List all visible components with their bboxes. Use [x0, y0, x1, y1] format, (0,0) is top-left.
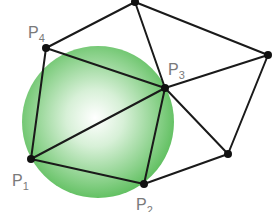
triangulation-diagram: P1 P2 P3 P4	[0, 0, 272, 212]
label-p4: P4	[28, 24, 45, 44]
circumcircle	[22, 46, 174, 198]
edge-r-b	[228, 55, 268, 154]
node-t	[131, 0, 139, 6]
node-p3	[161, 84, 169, 92]
label-p3: P3	[168, 61, 185, 81]
edge-p4-t	[46, 2, 135, 48]
node-b	[224, 150, 232, 158]
node-p1	[27, 155, 35, 163]
label-p2: P2	[136, 196, 153, 212]
edge-p3-b	[165, 88, 228, 154]
edge-t-r	[135, 2, 268, 55]
node-p2	[140, 180, 148, 188]
label-p1: P1	[12, 172, 29, 192]
node-p4	[42, 44, 50, 52]
node-r	[264, 51, 272, 59]
